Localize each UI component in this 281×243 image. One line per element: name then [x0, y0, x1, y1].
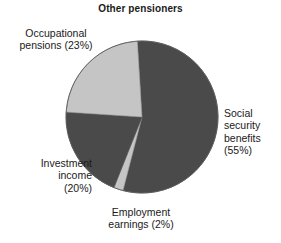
- pie-label-investment-income-line2: income: [4, 169, 92, 181]
- pie-label-investment-income-line3: (20%): [4, 182, 92, 194]
- pie-label-social-security-benefits-line4: (55%): [224, 144, 280, 156]
- pie-label-employment-earnings-line2: earnings (2%): [88, 218, 194, 230]
- pie-label-occupational-pensions-line2: pensions (23%): [4, 39, 108, 51]
- pie-label-employment-earnings: Employment earnings (2%): [88, 206, 194, 231]
- pie-label-investment-income-line1: Investment: [4, 157, 92, 169]
- pie-label-occupational-pensions-line1: Occupational: [4, 27, 108, 39]
- pie-label-social-security-benefits-line2: security: [224, 119, 280, 131]
- pie-label-social-security-benefits-line1: Social: [224, 107, 280, 119]
- pie-label-investment-income: Investment income (20%): [4, 157, 92, 194]
- pie-label-occupational-pensions: Occupational pensions (23%): [4, 27, 108, 52]
- pie-slice-occupational-pensions: [66, 41, 142, 117]
- pie-label-social-security-benefits-line3: benefits: [224, 132, 280, 144]
- pie-chart-figure: Other pensioners Occupational pensions (…: [0, 0, 281, 243]
- pie-label-employment-earnings-line1: Employment: [88, 206, 194, 218]
- pie-label-social-security-benefits: Social security benefits (55%): [224, 107, 280, 157]
